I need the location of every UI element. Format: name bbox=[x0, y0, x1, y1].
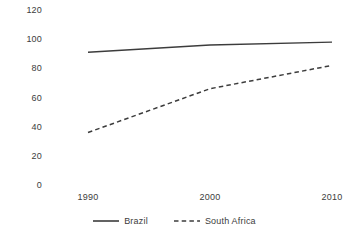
x-tick-label-2010: 2010 bbox=[312, 192, 349, 202]
series-line-brazil bbox=[88, 42, 332, 52]
legend-label-south-africa: South Africa bbox=[205, 216, 256, 226]
legend-line-solid-icon bbox=[93, 217, 119, 225]
plot-area bbox=[0, 0, 349, 236]
chart-legend: Brazil South Africa bbox=[0, 212, 349, 230]
x-tick-label-1990: 1990 bbox=[68, 192, 108, 202]
legend-label-brazil: Brazil bbox=[124, 216, 148, 226]
legend-line-dashed-icon bbox=[174, 217, 200, 225]
line-chart: 120 100 80 60 40 20 0 1990 2000 2010 Bra… bbox=[0, 0, 349, 236]
x-tick-label-2000: 2000 bbox=[190, 192, 230, 202]
legend-item-brazil: Brazil bbox=[93, 216, 148, 226]
legend-item-south-africa: South Africa bbox=[174, 216, 256, 226]
series-line-south-africa bbox=[88, 65, 332, 132]
